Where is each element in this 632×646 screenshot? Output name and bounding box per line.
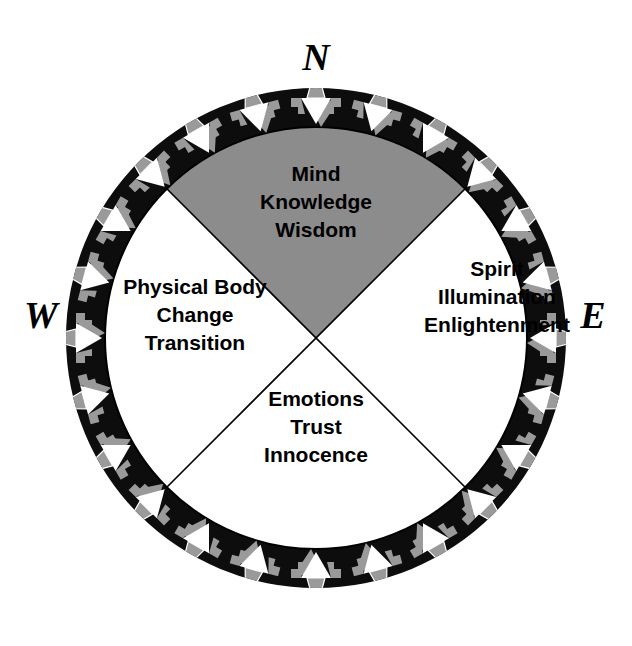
quadrant-west-line-2: Change (70, 301, 320, 329)
marker-cap (307, 578, 325, 588)
quadrant-text-west: Physical Body Change Transition (70, 273, 320, 357)
marker-cap (307, 88, 325, 98)
quadrant-east-line-1: Spirit (372, 255, 622, 283)
quadrant-west-line-1: Physical Body (70, 273, 320, 301)
quadrant-text-south: Emotions Trust Innocence (186, 385, 446, 469)
quadrant-text-east: Spirit Illumination Enlightenment (372, 255, 622, 339)
quadrant-north-line-1: Mind (166, 160, 466, 188)
quadrant-east-line-3: Enlightenment (372, 311, 622, 339)
cardinal-label-north: N (0, 38, 632, 76)
cardinal-label-west: W (18, 296, 64, 334)
quadrant-east-line-2: Illumination (372, 283, 622, 311)
quadrant-south-line-1: Emotions (186, 385, 446, 413)
quadrant-text-north: Mind Knowledge Wisdom (166, 160, 466, 244)
quadrant-south-line-2: Trust (186, 413, 446, 441)
quadrant-south-line-3: Innocence (186, 441, 446, 469)
quadrant-north-line-3: Wisdom (166, 216, 466, 244)
quadrant-north-line-2: Knowledge (166, 188, 466, 216)
quadrant-west-line-3: Transition (70, 329, 320, 357)
diagram-canvas: N E S W (0, 0, 632, 646)
